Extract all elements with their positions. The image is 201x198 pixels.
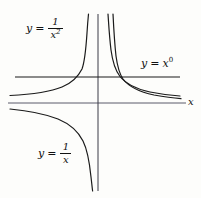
label-inv-x-lhs: y: [38, 148, 44, 159]
fraction-denominator: x2: [48, 29, 62, 40]
fraction-denominator: x: [61, 154, 71, 165]
label-x-zero-lhs: y: [141, 58, 147, 69]
label-x-zero-rhs: x0: [162, 58, 173, 69]
power-exponent: 0: [169, 56, 173, 64]
denominator-exponent: 2: [56, 28, 60, 36]
fraction-numerator: 1: [50, 17, 60, 28]
label-y-equals-one-over-x: y = 1 x: [38, 142, 72, 165]
fraction-one-over-x-squared: 1 x2: [48, 17, 62, 40]
fraction-numerator: 1: [61, 142, 71, 153]
label-inv-x-equals: =: [46, 148, 57, 159]
label-inv-sq-lhs: y: [26, 23, 32, 34]
x-axis-label: x: [188, 97, 194, 107]
label-inv-sq-equals: =: [34, 23, 45, 34]
label-y-equals-one-over-x-squared: y = 1 x2: [26, 17, 64, 40]
function-graph-figure: y = 1 x2 y = x0 y = 1 x x: [0, 0, 201, 198]
label-x-zero-equals: =: [149, 58, 160, 69]
curve-inverse-square-right-branch: [108, 14, 180, 96]
label-y-equals-x-to-the-zero: y = x0: [141, 58, 173, 69]
fraction-one-over-x: 1 x: [60, 142, 71, 165]
